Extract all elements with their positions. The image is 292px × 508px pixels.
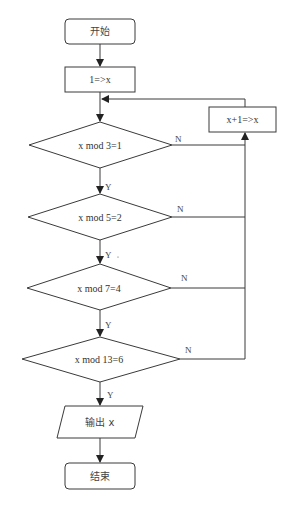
cond3-label: x mod 7=4 [77,283,120,294]
cond4-yes-label: Y [107,390,114,400]
cond3-node: x mod 7=4 [27,264,171,310]
cond1-node: x mod 3=1 [29,122,172,168]
cond2-node: x mod 5=2 [28,194,172,240]
cond1-label: x mod 3=1 [78,140,121,151]
cond2-yes-label: Y [105,250,112,260]
end-label: 结束 [90,470,110,482]
cond2-no-label: N [177,204,184,214]
cond2-label: x mod 5=2 [78,212,121,223]
stray-dot [117,256,118,257]
init-node: 1=>x [65,67,135,92]
cond4-node: x mod 13=6 [22,337,180,382]
cond3-yes-label: Y [105,320,112,330]
start-node: 开始 [65,19,135,44]
end-node: 结束 [65,463,135,489]
flowchart: 开始 1=>x x+1=>x x mod 3=1 N Y x mod 5=2 N… [0,0,292,508]
cond1-no-label: N [175,134,182,144]
cond4-label: x mod 13=6 [75,354,123,365]
init-label: 1=>x [89,74,110,85]
cond1-yes-label: Y [105,182,112,192]
cond4-no-label: N [185,345,192,355]
start-label: 开始 [90,25,110,37]
increment-node: x+1=>x [209,107,276,132]
cond3-no-label: N [181,273,188,283]
increment-label: x+1=>x [227,114,259,125]
edge-increment-loop [102,99,245,107]
output-node: 输出 x [57,406,143,438]
output-label: 输出 x [85,416,114,428]
